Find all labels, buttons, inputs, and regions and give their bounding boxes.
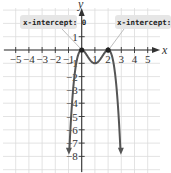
x-tick-label: −5 — [10, 53, 22, 65]
y-tick-label: −2 — [66, 71, 78, 83]
callout-right-pointer — [110, 29, 124, 48]
y-tick-label: −6 — [66, 124, 78, 136]
x-tick-label: −2 — [49, 53, 61, 65]
x-intercept-point-2 — [106, 47, 111, 52]
y-tick-label: −7 — [66, 137, 78, 149]
x-tick-label: 3 — [119, 53, 125, 65]
x-tick-label: 4 — [132, 53, 138, 65]
x-tick-label: 5 — [145, 53, 151, 65]
y-axis-label: y — [77, 0, 84, 11]
x-tick-label: −4 — [23, 53, 35, 65]
x-tick-label: 2 — [105, 53, 111, 65]
y-tick-label: −8 — [66, 150, 78, 162]
x-axis-arrow-icon — [152, 47, 160, 53]
x-tick-label: −3 — [36, 53, 48, 65]
callout-left-text: x-intercept: 0 — [23, 18, 87, 27]
x-axis-label: x — [161, 43, 168, 57]
function-graph: x y −5−4−3−2−1123451−1−2−3−4−5−6−7−8 x-i… — [0, 0, 171, 173]
callout-right-text: x-intercept: 2 — [117, 18, 171, 27]
curve-arrow-right-icon — [118, 148, 124, 155]
x-intercept-point-0 — [79, 47, 84, 52]
